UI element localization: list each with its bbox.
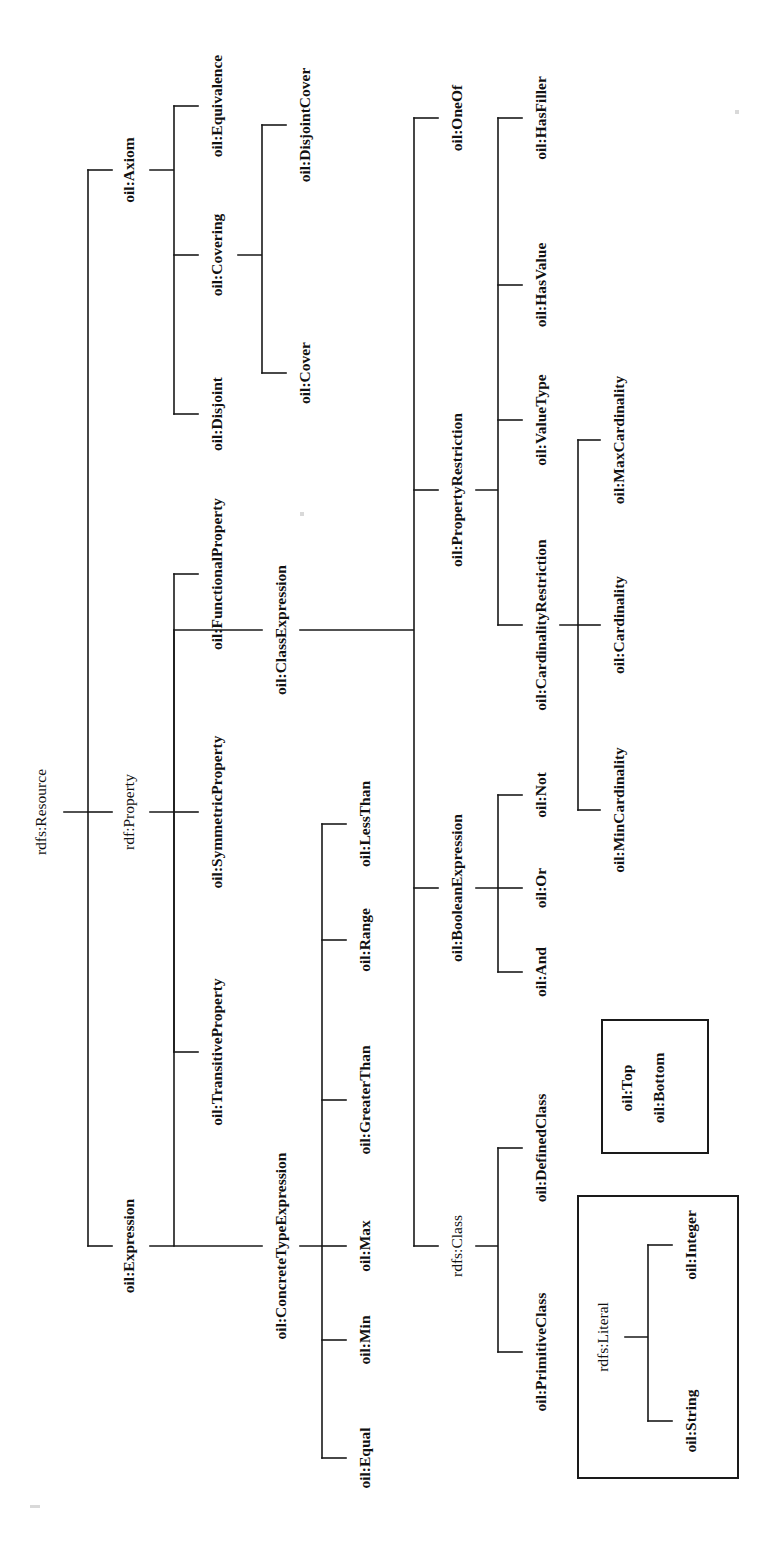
node-label-rdfs-resource: rdfs:Resource [32, 769, 49, 855]
edge-rdfproperty-spine [150, 574, 174, 1052]
node-label-oil-bottom: oil:Bottom [650, 1053, 667, 1124]
edge-booleanexpression-spine [476, 795, 498, 972]
node-label-oil-covering: oil:Covering [208, 213, 225, 296]
node-label-oil-disjoint: oil:Disjoint [208, 376, 225, 451]
node-label-rdfs-literal: rdfs:Literal [594, 1302, 611, 1372]
node-label-oil-cardinalityrestriction: oil:CardinalityRestriction [532, 539, 549, 711]
node-label-oil-cover: oil:Cover [296, 342, 313, 404]
node-label-oil-functionalproperty: oil:FunctionalProperty [208, 498, 225, 650]
node-label-oil-oneof: oil:OneOf [448, 84, 465, 151]
node-label-oil-equivalence: oil:Equivalence [208, 55, 225, 158]
edge-expression-spine [150, 630, 174, 1246]
node-label-oil-range: oil:Range [356, 908, 373, 972]
node-label-oil-string: oil:String [682, 1389, 699, 1452]
edge-covering-spine [238, 125, 262, 373]
edge-propertyrestriction-spine [476, 118, 498, 625]
node-label-oil-transitiveproperty: oil:TransitiveProperty [208, 978, 225, 1126]
edge-cardinalityrestriction-spine [560, 440, 578, 810]
node-label-oil-axiom: oil:Axiom [120, 137, 137, 203]
node-label-oil-valuetype: oil:ValueType [532, 374, 549, 465]
edge-rdfsliteral-spine [625, 1245, 648, 1421]
node-label-oil-lessthan: oil:LessThan [356, 781, 373, 868]
node-label-oil-and: oil:And [532, 947, 549, 997]
node-label-oil-top: oil:Top [618, 1065, 635, 1112]
node-label-oil-hasvalue: oil:HasValue [532, 243, 549, 328]
node-label-oil-max: oil:Max [356, 1220, 373, 1272]
tree-labels: rdfs:Resource oil:Axiom rdf:Property oil… [32, 55, 699, 1489]
node-label-oil-greaterthan: oil:GreaterThan [356, 1045, 373, 1154]
tree-svg: rdfs:Resource oil:Axiom rdf:Property oil… [0, 0, 768, 1546]
node-label-oil-propertyrestriction: oil:PropertyRestriction [448, 413, 465, 567]
edge-axiom-spine [150, 106, 174, 414]
node-label-oil-booleanexpression: oil:BooleanExpression [448, 814, 465, 962]
oil-taxonomy-diagram: rdfs:Resource oil:Axiom rdf:Property oil… [0, 0, 768, 1546]
node-label-oil-disjointcover: oil:DisjointCover [296, 68, 313, 183]
node-label-oil-integer: oil:Integer [682, 1210, 699, 1280]
node-label-oil-min: oil:Min [356, 1315, 373, 1364]
node-label-oil-definedclass: oil:DefinedClass [532, 1094, 549, 1203]
node-label-oil-cardinality: oil:Cardinality [610, 576, 627, 674]
node-label-oil-concretetypeexpression: oil:ConcreteTypeExpression [272, 1152, 289, 1339]
node-label-oil-maxcardinality: oil:MaxCardinality [610, 376, 627, 505]
node-label-oil-not: oil:Not [532, 771, 549, 817]
node-label-oil-hasfiller: oil:HasFiller [532, 76, 549, 160]
node-label-oil-symmetricproperty: oil:SymmetricProperty [208, 735, 225, 888]
node-label-oil-expression: oil:Expression [120, 1198, 137, 1293]
node-label-rdf-property: rdf:Property [120, 774, 137, 850]
node-label-oil-mincardinality: oil:MinCardinality [610, 747, 627, 873]
node-label-oil-or: oil:Or [532, 868, 549, 909]
edge-concretetypeexpression-spine [300, 824, 322, 1458]
node-label-oil-primitiveclass: oil:PrimitiveClass [532, 1293, 549, 1412]
edge-rdfsclass-spine [476, 1148, 498, 1352]
node-label-oil-classexpression: oil:ClassExpression [272, 565, 289, 695]
node-label-rdfs-class: rdfs:Class [448, 1215, 465, 1277]
node-label-oil-equal: oil:Equal [356, 1427, 373, 1489]
edge-root-spine [64, 170, 88, 1246]
